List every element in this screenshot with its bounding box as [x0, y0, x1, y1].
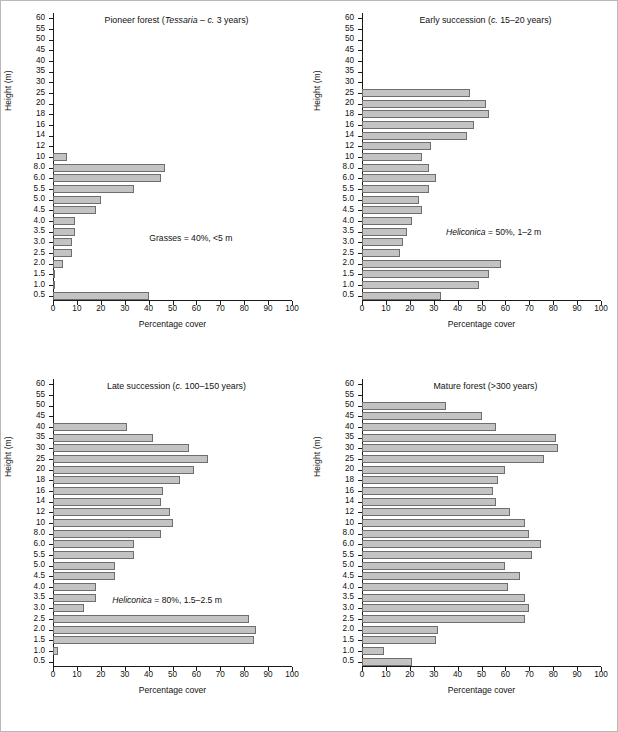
bar — [362, 455, 544, 463]
bar — [53, 174, 161, 182]
y-tick-label: 5.5 — [34, 185, 45, 193]
y-tick-label: 3.0 — [34, 238, 45, 246]
y-tick-label: 12 — [345, 142, 354, 150]
y-tick-label: 2.5 — [343, 249, 354, 257]
y-tick-label: 2.0 — [343, 259, 354, 267]
y-tick-label: 5.0 — [34, 561, 45, 569]
y-tick-label: 40 — [345, 57, 354, 65]
bar — [53, 508, 170, 516]
x-axis-title: Percentage cover — [53, 685, 292, 695]
y-tick-label: 45 — [345, 46, 354, 54]
bar — [53, 292, 149, 300]
x-tick-label: 80 — [549, 305, 558, 313]
bar — [53, 562, 115, 570]
bar — [362, 604, 529, 612]
x-tick-label: 10 — [72, 305, 81, 313]
y-tick-label: 16 — [36, 121, 45, 129]
x-tick-label: 10 — [381, 671, 390, 679]
y-tick-label: 40 — [345, 423, 354, 431]
bar — [53, 530, 161, 538]
y-tick-label: 40 — [36, 423, 45, 431]
x-tick-labels: 0102030405060708090100 — [53, 671, 292, 683]
bar — [362, 89, 470, 97]
bar — [362, 615, 525, 623]
x-tick-label: 20 — [405, 305, 414, 313]
y-tick-label: 35 — [36, 67, 45, 75]
y-tick-label: 14 — [345, 131, 354, 139]
y-tick-label: 8.0 — [34, 529, 45, 537]
y-tick-label: 6.0 — [34, 174, 45, 182]
y-tick-label: 5.0 — [343, 195, 354, 203]
bar — [53, 636, 254, 644]
y-tick-label: 60 — [36, 380, 45, 388]
y-tick-label: 10 — [345, 519, 354, 527]
y-tick-label: 45 — [36, 46, 45, 54]
y-tick-label: 10 — [345, 153, 354, 161]
y-tick-label: 60 — [36, 14, 45, 22]
x-tick-label: 80 — [549, 671, 558, 679]
bar — [362, 121, 474, 129]
y-tick-label: 30 — [345, 78, 354, 86]
x-tick-label: 0 — [360, 671, 365, 679]
y-tick-label: 20 — [345, 99, 354, 107]
y-tick-label: 4.0 — [343, 217, 354, 225]
y-tick-label: 50 — [36, 401, 45, 409]
x-tick-labels: 0102030405060708090100 — [362, 671, 601, 683]
bar — [53, 572, 115, 580]
bar — [362, 487, 493, 495]
x-tick-label: 70 — [216, 305, 225, 313]
x-tick-label: 60 — [192, 305, 201, 313]
bar — [362, 206, 422, 214]
x-tick-label: 40 — [453, 305, 462, 313]
x-tick-label: 50 — [168, 305, 177, 313]
y-tick-label: 4.0 — [34, 217, 45, 225]
x-tick-label: 0 — [360, 305, 365, 313]
y-tick-label: 18 — [36, 110, 45, 118]
x-tick-label: 100 — [285, 305, 299, 313]
bar — [362, 444, 558, 452]
x-tick-label: 30 — [429, 305, 438, 313]
y-tick-label: 4.5 — [343, 206, 354, 214]
y-tick-label: 1.0 — [34, 647, 45, 655]
y-tick-label: 25 — [345, 455, 354, 463]
y-tick-label: 0.5 — [34, 657, 45, 665]
x-tick-label: 10 — [381, 305, 390, 313]
y-tick-label: 5.0 — [343, 561, 354, 569]
y-tick-label: 2.5 — [34, 249, 45, 257]
bar — [362, 551, 532, 559]
bar — [53, 249, 72, 257]
bar — [53, 455, 208, 463]
panel-top-left: Pioneer forest (Tessaria – c. 3 years)He… — [1, 1, 310, 367]
y-tick-labels: 60555045403530252018161412108.06.05.55.0… — [1, 379, 51, 667]
y-tick-label: 40 — [36, 57, 45, 65]
bar — [53, 185, 134, 193]
y-tick-label: 12 — [36, 142, 45, 150]
y-tick-label: 4.0 — [343, 583, 354, 591]
y-tick-label: 8.0 — [343, 163, 354, 171]
bar — [362, 498, 496, 506]
x-axis-title: Percentage cover — [362, 685, 601, 695]
y-tick-label: 14 — [36, 131, 45, 139]
y-tick-label: 1.0 — [343, 281, 354, 289]
y-tick-label: 16 — [345, 487, 354, 495]
y-tick-label: 55 — [345, 391, 354, 399]
y-tick-label: 25 — [36, 89, 45, 97]
x-tick-label: 60 — [501, 671, 510, 679]
bar — [362, 476, 498, 484]
y-tick-label: 20 — [36, 465, 45, 473]
x-tick-label: 30 — [120, 671, 129, 679]
bar — [362, 402, 446, 410]
y-tick-label: 6.0 — [343, 540, 354, 548]
y-tick-label: 3.0 — [343, 238, 354, 246]
bar — [362, 423, 496, 431]
x-tick-label: 90 — [264, 305, 273, 313]
x-tick-label: 70 — [525, 671, 534, 679]
y-tick-label: 4.5 — [34, 572, 45, 580]
bar — [53, 583, 96, 591]
x-tick-label: 90 — [264, 671, 273, 679]
x-tick-label: 70 — [525, 305, 534, 313]
y-tick-label: 55 — [345, 25, 354, 33]
y-tick-label: 14 — [345, 497, 354, 505]
x-tick-label: 50 — [168, 671, 177, 679]
y-tick-label: 18 — [345, 476, 354, 484]
